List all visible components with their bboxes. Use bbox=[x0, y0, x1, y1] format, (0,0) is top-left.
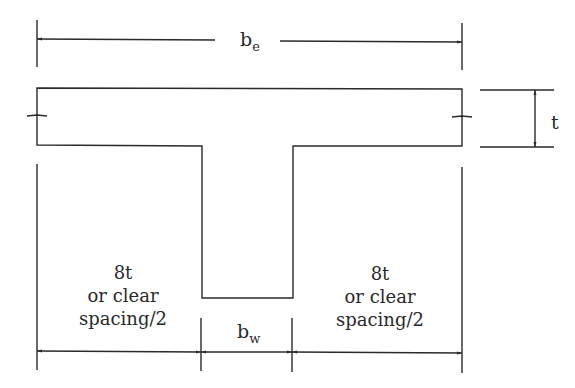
effective-width-dimension: be bbox=[37, 20, 462, 70]
t-beam-diagram: be t 8t or clear spacing/2 bw 8t or clea… bbox=[0, 0, 575, 388]
flange-thickness-dimension: t bbox=[480, 90, 559, 147]
svg-text:spacing/2: spacing/2 bbox=[79, 308, 167, 329]
svg-text:8t: 8t bbox=[114, 262, 133, 283]
bottom-dimensions bbox=[37, 351, 462, 353]
flange-thickness-label: t bbox=[551, 111, 559, 133]
svg-text:spacing/2: spacing/2 bbox=[336, 309, 424, 330]
diagram-svg: be t 8t or clear spacing/2 bw 8t or clea… bbox=[0, 0, 575, 388]
svg-text:or clear: or clear bbox=[345, 286, 416, 307]
svg-text:or clear: or clear bbox=[88, 285, 159, 306]
effective-width-label: be bbox=[240, 28, 260, 54]
right-overhang-label: 8t or clear spacing/2 bbox=[336, 263, 424, 330]
t-beam-outline bbox=[27, 88, 472, 298]
svg-text:8t: 8t bbox=[371, 263, 390, 284]
left-overhang-label: 8t or clear spacing/2 bbox=[79, 262, 167, 329]
web-width-label: bw bbox=[237, 320, 260, 346]
